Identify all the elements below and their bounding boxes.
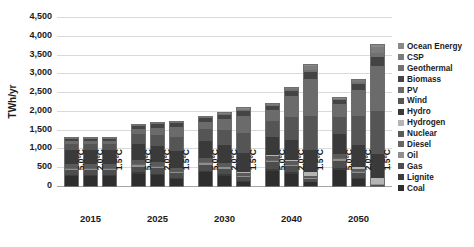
x-axis-tick: 5.0°C — [76, 149, 86, 189]
y-axis-tick: 4,500 — [6, 11, 52, 21]
gridline — [57, 17, 392, 18]
x-axis-tick: 2.0°C — [229, 149, 239, 189]
legend-label: PV — [407, 86, 418, 95]
legend-item[interactable]: Gas — [398, 161, 474, 172]
legend-item[interactable]: Coal — [398, 183, 474, 194]
legend-label: Gas — [407, 162, 422, 171]
legend-item[interactable]: CSP — [398, 52, 474, 63]
gridline — [57, 73, 392, 74]
legend-item[interactable]: Ocean Energy — [398, 41, 474, 52]
x-axis-tick: 5.0°C — [344, 149, 354, 189]
legend-item[interactable]: Lignite — [398, 172, 474, 183]
bar-segment-csp — [371, 47, 384, 54]
legend-label: Geothermal — [407, 64, 453, 73]
gridline — [57, 55, 392, 56]
plot-area — [57, 17, 392, 187]
bar-segment-wind — [132, 134, 145, 144]
y-axis-tick: 3,000 — [6, 67, 52, 77]
y-axis-tick: 3,500 — [6, 49, 52, 59]
bar-segment-pv — [237, 116, 250, 133]
x-axis-group-label: 2015 — [56, 213, 126, 224]
legend-item[interactable]: Biomass — [398, 74, 474, 85]
y-axis-tick: 2,500 — [6, 86, 52, 96]
legend-swatch-icon — [398, 109, 404, 115]
y-axis-tick: 500 — [6, 161, 52, 171]
legend-swatch-icon — [398, 174, 404, 180]
bar-segment-wind — [285, 117, 298, 140]
x-axis-tick: 1.5°C — [114, 149, 124, 189]
bar-segment-pv — [352, 90, 365, 116]
legend-label: Ocean Energy — [407, 42, 462, 51]
bar-segment-wind — [371, 111, 384, 153]
bar-segment-pv — [151, 128, 164, 135]
legend-swatch-icon — [398, 76, 404, 82]
legend-label: Oil — [407, 151, 418, 160]
legend-item[interactable]: Geothermal — [398, 63, 474, 74]
bar-segment-wind — [352, 116, 365, 145]
legend-swatch-icon — [398, 152, 404, 158]
bar-segment-pv — [218, 119, 231, 130]
x-axis-group-label: 2025 — [123, 213, 193, 224]
x-axis-group-label: 2030 — [190, 213, 260, 224]
y-axis-tick: 4,000 — [6, 30, 52, 40]
y-axis-tick: 2,000 — [6, 105, 52, 115]
x-axis-tick: 2.0°C — [95, 149, 105, 189]
legend-item[interactable]: Hydro — [398, 106, 474, 117]
legend-swatch-icon — [398, 54, 404, 60]
bar-segment-wind — [333, 117, 346, 135]
y-axis-tick: 1,000 — [6, 142, 52, 152]
y-axis-tick: 0 — [6, 180, 52, 190]
bar-segment-pv — [170, 127, 183, 137]
gridline — [57, 92, 392, 93]
legend-label: CSP — [407, 53, 424, 62]
legend-label: Hydrogen — [407, 118, 445, 127]
legend-label: Nuclear — [407, 129, 437, 138]
legend-label: Wind — [407, 96, 427, 105]
legend-label: Coal — [407, 184, 425, 193]
stacked-bar-chart: TWh/yr 4,5004,0003,5003,0002,5002,0001,5… — [0, 0, 474, 247]
legend-swatch-icon — [398, 43, 404, 49]
legend-swatch-icon — [398, 120, 404, 126]
bar-segment-pv — [199, 122, 212, 129]
x-axis-tick: 5.0°C — [210, 149, 220, 189]
legend-swatch-icon — [398, 141, 404, 147]
bar-segment-pv — [266, 110, 279, 121]
legend-swatch-icon — [398, 185, 404, 191]
legend-label: Hydro — [407, 107, 431, 116]
legend-item[interactable]: Nuclear — [398, 128, 474, 139]
legend: Ocean EnergyCSPGeothermalBiomassPVWindHy… — [398, 41, 474, 193]
legend-item[interactable]: Hydrogen — [398, 117, 474, 128]
x-axis-tick: 5.0°C — [277, 149, 287, 189]
legend-swatch-icon — [398, 87, 404, 93]
x-axis-group-label: 2050 — [324, 213, 394, 224]
legend-label: Biomass — [407, 75, 441, 84]
x-axis-group-label: 2040 — [257, 213, 327, 224]
x-axis-tick: 1.5°C — [315, 149, 325, 189]
bar-segment-wind — [151, 135, 164, 146]
legend-item[interactable]: PV — [398, 85, 474, 96]
x-axis-tick: 5.0°C — [143, 149, 153, 189]
bar-segment-pv — [304, 79, 317, 116]
x-axis-tick: 2.0°C — [363, 149, 373, 189]
bar-segment-biomass — [371, 57, 384, 66]
legend-item[interactable]: Wind — [398, 95, 474, 106]
legend-label: Lignite — [407, 173, 434, 182]
bar-segment-wind — [266, 121, 279, 137]
gridline — [57, 36, 392, 37]
bar-segment-pv — [333, 104, 346, 116]
legend-item[interactable]: Oil — [398, 150, 474, 161]
bar-segment-biomass — [304, 72, 317, 80]
x-axis-tick: 1.5°C — [382, 149, 392, 189]
x-axis-tick: 2.0°C — [162, 149, 172, 189]
bar-segment-pv — [371, 66, 384, 111]
legend-item[interactable]: Diesel — [398, 139, 474, 150]
bar-segment-wind — [199, 129, 212, 141]
legend-swatch-icon — [398, 131, 404, 137]
x-axis-tick: 1.5°C — [181, 149, 191, 189]
bar-segment-wind — [304, 116, 317, 150]
legend-swatch-icon — [398, 163, 404, 169]
x-axis-tick: 2.0°C — [296, 149, 306, 189]
y-axis-tick: 1,500 — [6, 124, 52, 134]
legend-label: Diesel — [407, 140, 431, 149]
x-axis-tick: 1.5°C — [248, 149, 258, 189]
